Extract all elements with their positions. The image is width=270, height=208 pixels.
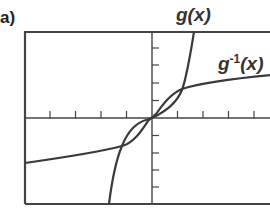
graph	[0, 0, 270, 208]
g-label: g(x)	[176, 4, 211, 26]
g-inv-sup: -1	[230, 52, 241, 66]
g-inverse-label: g-1(x)	[218, 52, 264, 75]
g-inv-arg: (x)	[240, 53, 263, 74]
g-label-text: g(x)	[176, 4, 211, 25]
g-inv-base: g	[218, 53, 230, 74]
